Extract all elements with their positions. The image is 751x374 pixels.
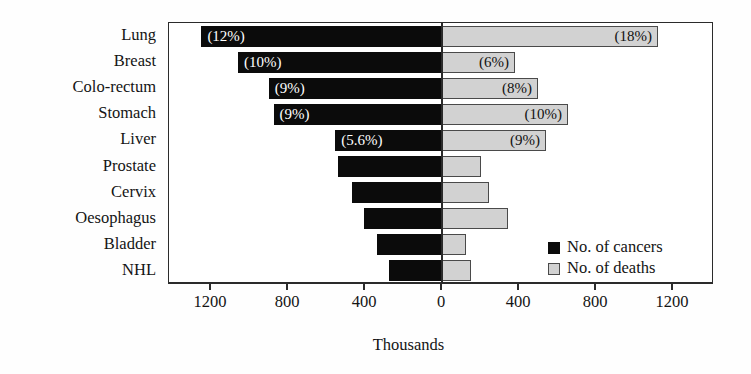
axis-tick — [363, 283, 364, 290]
axis-tick — [440, 283, 441, 290]
category-axis-labels: LungBreastColo-rectumStomachLiverProstat… — [0, 22, 162, 283]
axis-tick — [209, 283, 210, 290]
category-label: Prostate — [0, 158, 156, 175]
bar-cancers: (9%) — [269, 78, 442, 99]
axis-tick-label: 800 — [583, 294, 608, 311]
legend-item-deaths: No. of deaths — [548, 258, 663, 279]
axis-title: Thousands — [0, 337, 751, 354]
category-label: Oesophagus — [0, 210, 156, 227]
bar-data-label: (8%) — [502, 81, 532, 96]
bar-data-label: (5.6%) — [341, 133, 382, 148]
bar-cancers: (5.6%) — [335, 130, 442, 151]
category-label: Stomach — [0, 105, 156, 122]
category-label: Cervix — [0, 184, 156, 201]
bar-deaths — [442, 182, 489, 203]
bar-deaths — [442, 260, 471, 281]
axis-tick-label: 400 — [506, 294, 531, 311]
category-label: Breast — [0, 53, 156, 70]
axis-tick — [671, 283, 672, 290]
chart-legend: No. of cancers No. of deaths — [548, 237, 663, 279]
category-label: Colo-rectum — [0, 79, 156, 96]
legend-label-cancers: No. of cancers — [567, 239, 663, 256]
bar-deaths: (8%) — [442, 78, 538, 99]
axis-tick — [517, 283, 518, 290]
bar-data-label: (12%) — [207, 29, 245, 44]
bar-cancers — [377, 234, 442, 255]
bar-cancers — [364, 208, 442, 229]
axis-tick-label: 400 — [352, 294, 377, 311]
axis-tick-label: 1200 — [194, 294, 227, 311]
bar-data-label: (9%) — [275, 81, 305, 96]
bar-data-label: (9%) — [510, 133, 540, 148]
bar-data-label: (18%) — [614, 29, 652, 44]
bar-data-label: (10%) — [525, 107, 563, 122]
category-label: Liver — [0, 131, 156, 148]
zero-axis-line — [441, 23, 443, 282]
bar-deaths — [442, 234, 466, 255]
legend-item-cancers: No. of cancers — [548, 237, 663, 258]
axis-title-text: Thousands — [373, 337, 445, 354]
bar-data-label: (6%) — [479, 55, 509, 70]
bar-cancers: (10%) — [238, 52, 442, 73]
category-label: Lung — [0, 27, 156, 44]
bar-deaths — [442, 156, 481, 177]
bar-data-label: (9%) — [280, 107, 310, 122]
bar-cancers — [352, 182, 442, 203]
axis-tick-label: 0 — [437, 294, 445, 311]
bar-chart: LungBreastColo-rectumStomachLiverProstat… — [0, 0, 751, 374]
bar-deaths — [442, 208, 508, 229]
bar-deaths: (6%) — [442, 52, 515, 73]
category-label: Bladder — [0, 236, 156, 253]
bar-cancers — [338, 156, 442, 177]
bar-cancers: (12%) — [201, 26, 442, 47]
legend-swatch-deaths-icon — [548, 263, 560, 275]
axis-tick-label: 1200 — [656, 294, 689, 311]
bar-deaths: (10%) — [442, 104, 568, 125]
legend-swatch-cancers-icon — [548, 242, 560, 254]
category-label: NHL — [0, 262, 156, 279]
bar-cancers — [389, 260, 442, 281]
axis-tick-label: 800 — [275, 294, 300, 311]
legend-label-deaths: No. of deaths — [567, 260, 655, 277]
bar-deaths: (18%) — [442, 26, 658, 47]
bar-deaths: (9%) — [442, 130, 546, 151]
bar-data-label: (10%) — [244, 55, 282, 70]
axis-tick — [286, 283, 287, 290]
bar-cancers: (9%) — [274, 104, 442, 125]
axis-tick — [594, 283, 595, 290]
